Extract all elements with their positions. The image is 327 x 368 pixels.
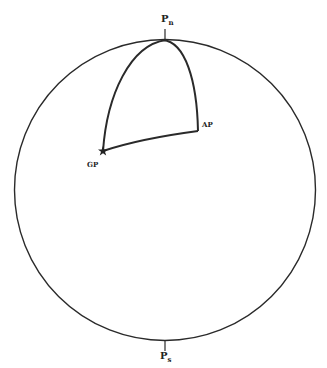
ap-label: AP — [201, 120, 213, 129]
meridian-to-gp — [103, 40, 166, 151]
navigational-triangle-diagram: Pn Ps AP GP — [0, 0, 327, 368]
south-pole-label: Ps — [160, 350, 172, 364]
gp-label: GP — [87, 160, 99, 169]
sphere-outline — [15, 40, 316, 341]
meridian-to-ap — [163, 40, 198, 131]
north-pole-label: Pn — [161, 13, 174, 27]
zenith-distance-arc — [103, 131, 198, 151]
